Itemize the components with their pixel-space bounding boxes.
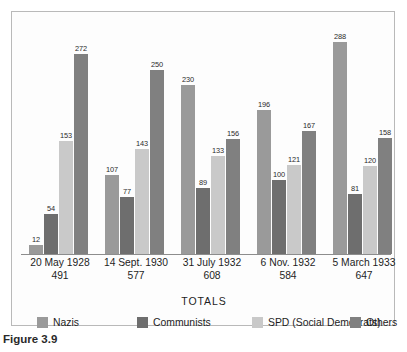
- bar-column: 230: [181, 16, 195, 254]
- figure-3-9: 1254153272107771432502308913315619610012…: [0, 0, 407, 352]
- category-name: 14 Sept. 1930: [96, 257, 176, 270]
- category-name: 31 July 1932: [172, 257, 252, 270]
- bar-column: 12: [29, 16, 43, 254]
- category-total: 647: [324, 270, 404, 283]
- bar-group: 23089133156: [181, 16, 243, 254]
- bar-column: 158: [378, 16, 392, 254]
- x-axis-baseline: [21, 254, 391, 255]
- bar-column: 272: [74, 16, 88, 254]
- bar: [74, 54, 88, 254]
- bar: [196, 188, 210, 254]
- category-total: 491: [20, 270, 100, 283]
- bar-value-label: 250: [140, 61, 174, 69]
- category-label: 5 March 1933647: [324, 257, 404, 282]
- bar: [211, 156, 225, 254]
- chart-legend: NazisCommunistsSPD (Social Democrats)Oth…: [25, 314, 389, 330]
- bar-column: 81: [348, 16, 362, 254]
- bar-column: 100: [272, 16, 286, 254]
- bar-value-label: 167: [292, 122, 326, 130]
- legend-swatch-icon: [252, 317, 263, 328]
- bar: [150, 70, 164, 254]
- bar: [59, 141, 73, 254]
- bar: [29, 245, 43, 254]
- bar: [348, 194, 362, 254]
- category-axis-labels: 20 May 192849114 Sept. 193057731 July 19…: [21, 257, 391, 293]
- bar-column: 107: [105, 16, 119, 254]
- bar-column: 250: [150, 16, 164, 254]
- bar: [378, 138, 392, 254]
- bar: [181, 85, 195, 254]
- bar-column: 89: [196, 16, 210, 254]
- bar: [226, 139, 240, 254]
- category-name: 20 May 1928: [20, 257, 100, 270]
- category-label: 14 Sept. 1930577: [96, 257, 176, 282]
- category-total: 584: [248, 270, 328, 283]
- bar: [363, 166, 377, 254]
- bar-column: 156: [226, 16, 240, 254]
- bar-group: 196100121167: [257, 16, 319, 254]
- legend-item[interactable]: Communists: [137, 317, 211, 328]
- legend-item[interactable]: Nazis: [37, 317, 79, 328]
- bar: [272, 180, 286, 254]
- category-name: 6 Nov. 1932: [248, 257, 328, 270]
- bar-value-label: 272: [64, 45, 98, 53]
- legend-label: Communists: [153, 317, 211, 328]
- bar-column: 167: [302, 16, 316, 254]
- legend-label: Nazis: [53, 317, 79, 328]
- legend-swatch-icon: [37, 317, 48, 328]
- category-label: 20 May 1928491: [20, 257, 100, 282]
- bar: [105, 175, 119, 254]
- legend-swatch-icon: [137, 317, 148, 328]
- bar-column: 143: [135, 16, 149, 254]
- bar: [302, 131, 316, 254]
- bar-group: 10777143250: [105, 16, 167, 254]
- category-total: 577: [96, 270, 176, 283]
- category-label: 6 Nov. 1932584: [248, 257, 328, 282]
- bar-value-label: 158: [368, 129, 402, 137]
- bar-group: 1254153272: [29, 16, 91, 254]
- plot-area: 1254153272107771432502308913315619610012…: [21, 16, 387, 254]
- bar: [333, 42, 347, 254]
- category-total: 608: [172, 270, 252, 283]
- bar: [135, 149, 149, 254]
- legend-swatch-icon: [350, 317, 361, 328]
- bar-value-label: 156: [216, 130, 250, 138]
- chart-panel: 1254153272107771432502308913315619610012…: [11, 11, 395, 326]
- bar-column: 121: [287, 16, 301, 254]
- category-label: 31 July 1932608: [172, 257, 252, 282]
- bar: [287, 165, 301, 254]
- legend-item[interactable]: Others: [350, 317, 397, 328]
- bar-column: 196: [257, 16, 271, 254]
- legend-label: Others: [366, 317, 397, 328]
- bar: [120, 197, 134, 254]
- figure-caption: Figure 3.9: [3, 333, 57, 345]
- bar-group: 28881120158: [333, 16, 395, 254]
- bar: [257, 110, 271, 254]
- totals-axis-label: TOTALS: [12, 295, 396, 307]
- category-name: 5 March 1933: [324, 257, 404, 270]
- bar-column: 288: [333, 16, 347, 254]
- bar: [44, 214, 58, 254]
- bar-column: 77: [120, 16, 134, 254]
